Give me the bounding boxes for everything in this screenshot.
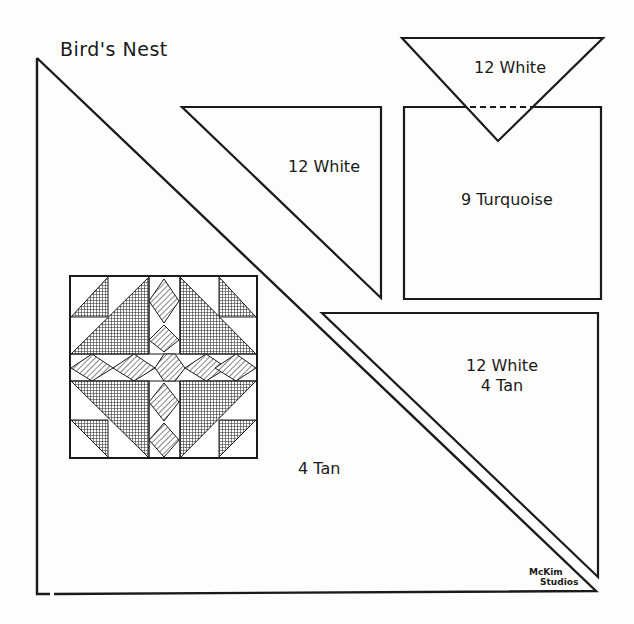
square-label: 9 Turquoise [461,192,553,208]
diagram-title: Bird's Nest [60,40,168,59]
lower-right-triangle [322,313,598,577]
quilt-block-thumbnail [70,276,257,458]
upper-triangle-label: 12 White [288,159,360,175]
top-triangle-label: 12 White [474,60,546,76]
top-inverted-triangle [402,38,603,141]
credit-line1: McKim [529,567,578,577]
lower-right-triangle-label: 12 White 4 Tan [466,356,538,396]
studio-credit: McKim Studios [529,567,578,587]
upper-middle-triangle [182,107,381,298]
large-triangle-label: 4 Tan [298,461,340,477]
lower-right-label-line2: 4 Tan [466,376,538,396]
credit-line2: Studios [529,577,578,587]
pattern-diagram [0,0,634,624]
lower-right-label-line1: 12 White [466,356,538,376]
